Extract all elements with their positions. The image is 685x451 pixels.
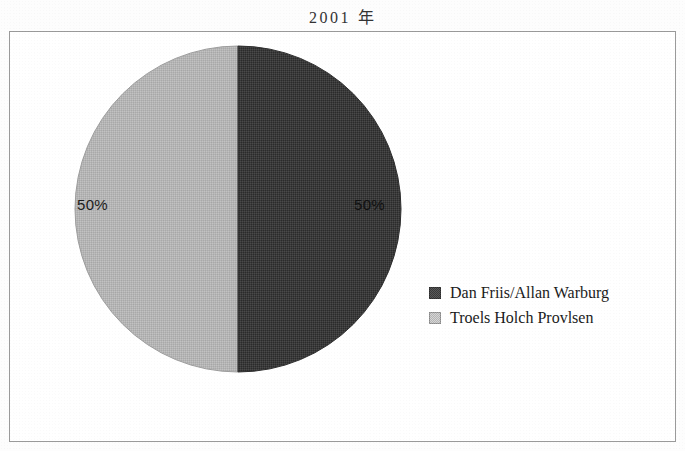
page-background: 2001 年 bbox=[0, 0, 685, 451]
pie-slice-label-left: 50% bbox=[77, 196, 108, 213]
page-title: 2001 年 bbox=[0, 4, 685, 28]
legend-item-troels-holch-provlsen[interactable]: Troels Holch Provlsen bbox=[429, 305, 674, 330]
legend-label: Troels Holch Provlsen bbox=[450, 310, 593, 326]
legend-item-dan-friis-allan-warburg[interactable]: Dan Friis/Allan Warburg bbox=[429, 280, 674, 305]
pie-slice-label-right: 50% bbox=[354, 196, 385, 213]
chart-plot-frame: 50% 50% Dan Friis/Allan Warburg Troels H… bbox=[9, 31, 676, 442]
pie-chart: 50% 50% bbox=[73, 44, 403, 374]
legend-swatch-icon bbox=[429, 287, 441, 299]
legend-label: Dan Friis/Allan Warburg bbox=[450, 285, 609, 301]
legend-swatch-icon bbox=[429, 312, 441, 324]
chart-legend: Dan Friis/Allan Warburg Troels Holch Pro… bbox=[429, 280, 674, 330]
